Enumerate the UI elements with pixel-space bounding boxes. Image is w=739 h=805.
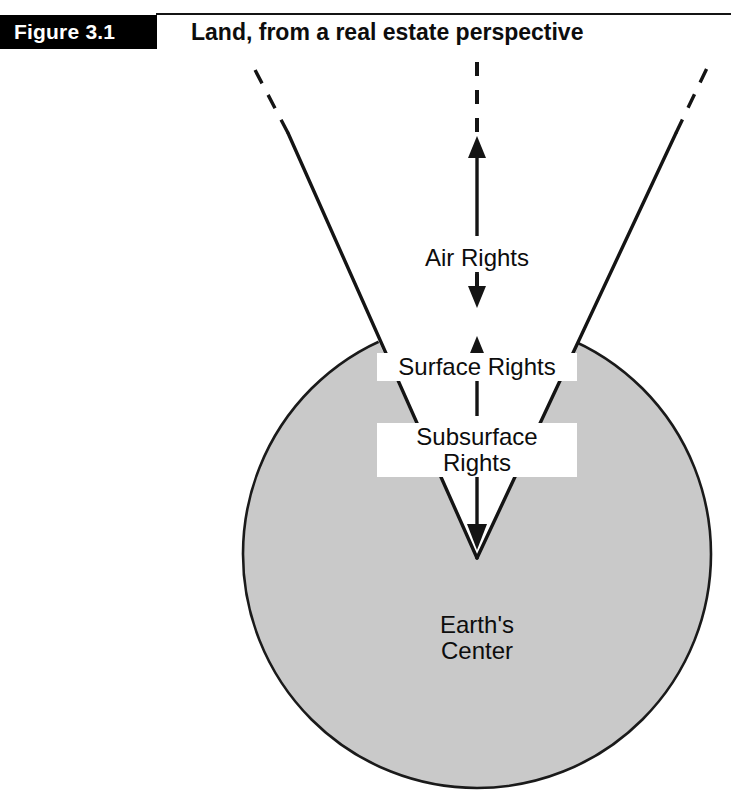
label-subsurface-rights: Subsurface Rights [377,423,577,477]
header-divider-rule [156,13,731,15]
label-air-rights: Air Rights [377,244,577,272]
wedge-left-arm-dashed [254,68,288,133]
label-earths-center-line2: Center [387,638,567,664]
label-earths-center-line1: Earth's [387,612,567,638]
air-rights-arrowhead-down [468,286,486,308]
label-surface-rights: Surface Rights [377,353,577,381]
label-subsurface-rights-line2: Rights [377,450,577,476]
land-rights-diagram: Air Rights Surface Rights Subsurface Rig… [0,50,739,805]
label-earths-center: Earth's Center [387,612,567,664]
label-subsurface-rights-line1: Subsurface [377,424,577,450]
figure-caption-title: Land, from a real estate perspective [191,17,583,47]
figure-number-badge: Figure 3.1 [0,15,157,49]
wedge-right-arm-dashed [676,68,707,133]
figure-panel: Figure 3.1 Land, from a real estate pers… [0,0,739,805]
diagram-svg [0,50,739,805]
